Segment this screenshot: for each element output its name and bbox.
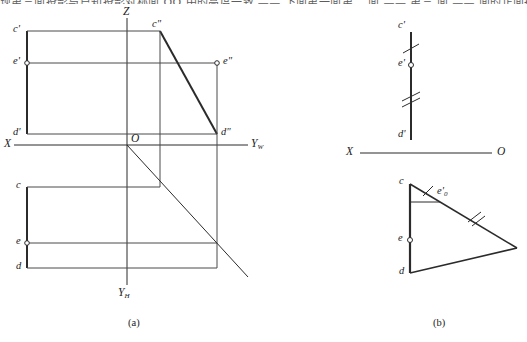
label-e-prime: e' (13, 56, 20, 67)
marker-e-prime-b (409, 63, 414, 68)
label-axis-z: Z (123, 6, 129, 18)
label-c-plan-b: c (399, 176, 404, 187)
label-e0-prime: e'0 (437, 186, 447, 198)
label-c-plan: c (16, 180, 21, 191)
marker-e-prime (25, 61, 30, 66)
figure-page: 现第三面投影与已知投影对称面 OO 中的高度一致 —— 下面第一面第二 面 ——… (0, 0, 527, 342)
label-c-prime: c' (13, 24, 20, 35)
label-origin-o-b: O (497, 146, 505, 158)
label-d-plan-b: d (399, 266, 404, 277)
label-e-prime-b: e' (398, 58, 405, 69)
label-d-prime-b: d' (398, 129, 406, 140)
label-axis-x: X (4, 138, 11, 150)
label-axis-yh: YH (118, 287, 129, 300)
label-c-prime-b: c' (398, 20, 405, 31)
figure-b-linework (360, 32, 517, 273)
drawing-canvas (0, 0, 527, 342)
label-axis-x-b: X (346, 146, 353, 158)
side-view-line-cd (160, 31, 217, 134)
label-e-plan-b: e (398, 233, 403, 244)
marker-e-double (215, 61, 220, 66)
label-axis-yw: YW (251, 138, 263, 151)
marker-e-plan-b (408, 238, 413, 243)
label-e-plan: e (16, 236, 21, 247)
marker-e-plan (25, 241, 30, 246)
label-d-plan: d (16, 261, 21, 272)
label-c-double: c" (152, 19, 161, 30)
caption-b: (b) (433, 317, 445, 328)
triangle-edge-base (410, 248, 517, 273)
label-d-prime: d' (13, 127, 21, 138)
label-origin-o: O (131, 133, 139, 145)
mitre-line (127, 145, 248, 277)
caption-a: (a) (128, 317, 140, 328)
figure-a-linework (14, 18, 248, 285)
label-d-double: d" (221, 127, 231, 138)
label-e-double: e" (223, 56, 232, 67)
